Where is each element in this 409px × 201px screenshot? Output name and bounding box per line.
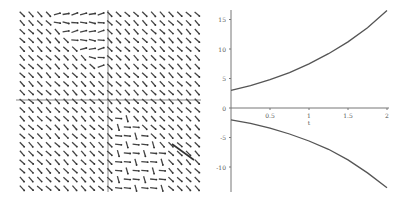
field-arrows <box>20 12 201 192</box>
y-tick-label: 10 <box>218 46 226 53</box>
y-tick-label: 15 <box>218 16 226 23</box>
x-tick-label: 0.5 <box>265 112 275 119</box>
upper-solution-curve <box>231 11 387 91</box>
x-axis-label: t <box>308 119 311 126</box>
solution-curves-canvas: 151050-5-100.511.52t <box>205 0 409 201</box>
y-tick-label: 5 <box>222 75 226 82</box>
x-tick-label: 1.5 <box>343 112 353 119</box>
lower-solution-curve <box>231 120 387 188</box>
y-tick-label: -10 <box>216 164 226 171</box>
y-tick-label: 0 <box>222 105 226 112</box>
x-tick-label: 1 <box>307 112 311 119</box>
solution-curves-plot: 151050-5-100.511.52t <box>205 0 409 201</box>
direction-field-canvas <box>0 0 205 201</box>
x-tick-label: 2 <box>385 112 389 119</box>
direction-field-plot <box>0 0 205 201</box>
y-tick-label: -5 <box>220 134 226 141</box>
